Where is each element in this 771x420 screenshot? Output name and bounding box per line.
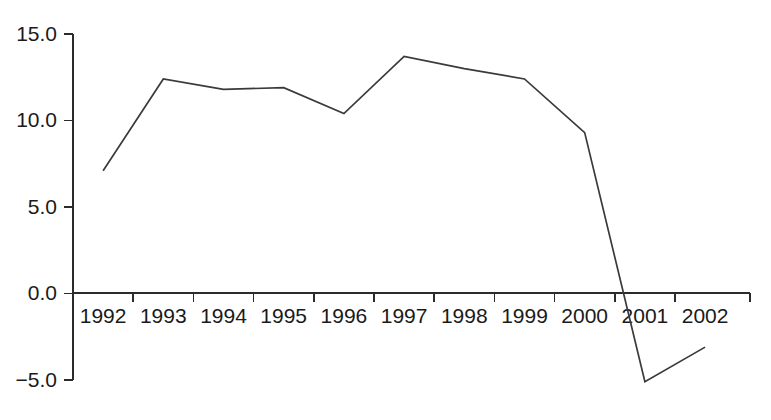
x-axis-tick-label: 1997 xyxy=(381,304,428,327)
line-chart-figure: −5.00.05.010.015.0 199219931994199519961… xyxy=(0,0,771,420)
x-axis-tick-label: 2002 xyxy=(682,304,729,327)
y-axis-tick-label: 10.0 xyxy=(16,108,57,131)
y-axis-tick-label: 0.0 xyxy=(28,281,57,304)
y-axis-tick-label: 5.0 xyxy=(28,195,57,218)
x-axis-tick-label: 2000 xyxy=(561,304,608,327)
x-axis-tick-label: 1995 xyxy=(260,304,307,327)
x-axis-tick-label: 1994 xyxy=(200,304,247,327)
chart-background xyxy=(0,0,771,420)
x-axis-tick-label: 1996 xyxy=(321,304,368,327)
x-axis-tick-label: 1998 xyxy=(441,304,488,327)
y-axis-tick-label: −5.0 xyxy=(16,368,57,391)
x-axis-tick-label: 1993 xyxy=(140,304,187,327)
x-axis-tick-label: 1999 xyxy=(501,304,548,327)
x-axis-tick-label: 1992 xyxy=(80,304,127,327)
chart-canvas: −5.00.05.010.015.0 199219931994199519961… xyxy=(0,0,771,420)
y-axis-tick-label: 15.0 xyxy=(16,22,57,45)
